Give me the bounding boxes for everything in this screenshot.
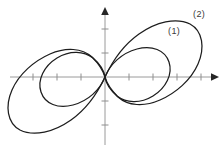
plot-canvas (0, 0, 222, 148)
curve-2-label: (2) (193, 9, 205, 19)
y-axis-arrow-icon (101, 7, 109, 15)
x-axis-arrow-icon (211, 73, 219, 81)
curve-1-label: (1) (168, 26, 180, 36)
curve-figure: (2) (1) (0, 0, 222, 148)
